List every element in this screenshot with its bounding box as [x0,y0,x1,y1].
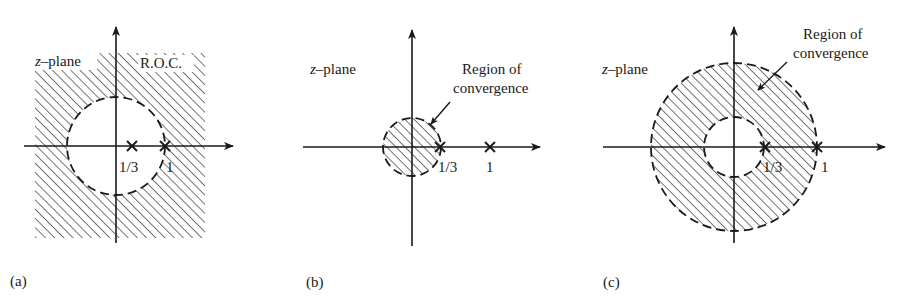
pole-label-c-1-3: 1/3 [763,159,782,175]
pole-label-a-1-3: 1/3 [119,159,138,175]
roc-label-c-line1: Region of [803,26,863,42]
z-plane-roc-figure: z–plane R.O.C. 1/3 1 (a) z–plane Region … [0,0,912,305]
plane-label-c: z–plane [601,61,648,77]
roc-pointer-arrow-b [431,102,450,124]
plane-label-b: z–plane [309,61,356,77]
panel-b: z–plane Region of convergence 1/3 1 (b) [303,30,540,291]
panel-c: z–plane Region of convergence 1/3 1 (c) [601,26,885,291]
pole-label-b-1: 1 [486,159,494,175]
pole-label-a-1: 1 [166,159,174,175]
plane-label-a: z–plane [34,53,81,69]
panel-a: z–plane R.O.C. 1/3 1 (a) [10,27,233,290]
pole-label-b-1-3: 1/3 [438,159,457,175]
roc-label-b-line2: convergence [453,80,529,96]
pole-label-c-1: 1 [821,159,829,175]
panel-label-b: (b) [306,274,324,291]
roc-label-c-line2: convergence [793,45,869,61]
roc-label-b-line1: Region of [462,61,522,77]
roc-label-a: R.O.C. [140,55,182,71]
panel-label-a: (a) [10,273,27,290]
panel-label-c: (c) [603,274,620,291]
